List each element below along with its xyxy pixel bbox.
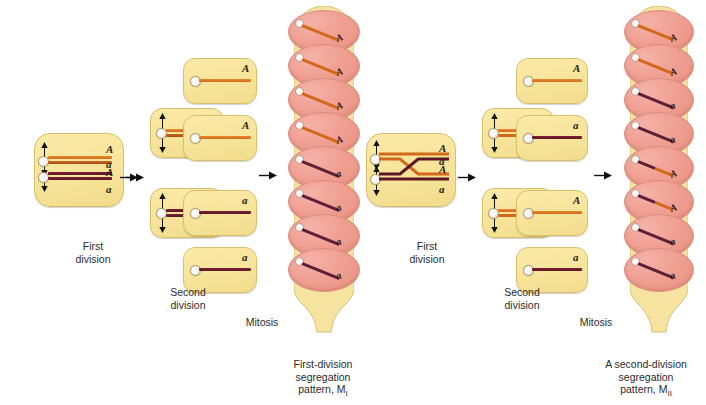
second-division-cell-2[interactable]: A [183, 115, 257, 161]
figure-canvas: AAaaAAaaAAaaAAAAaaaaFirstdivisionSecondd… [0, 0, 706, 405]
allele-label: a [573, 252, 579, 263]
caption-line: First [392, 240, 462, 253]
arrow-to-first-division-2 [458, 172, 476, 183]
allele-label: A [439, 143, 446, 154]
second-division-cell-3[interactable]: A [516, 190, 588, 236]
meiocyte-cell-crossover[interactable]: AAaa [366, 133, 456, 207]
second-division-cell-3[interactable]: a [183, 190, 257, 236]
allele-label: a [439, 156, 445, 167]
caption-line: division [482, 299, 562, 312]
chromatid-A-1 [48, 156, 112, 159]
chromatid [532, 268, 582, 271]
chromatid [532, 211, 582, 214]
arrow-first-division [120, 172, 138, 183]
caption-MII: A second-divisionsegregationpattern, MII [586, 358, 706, 401]
allele-label: a [439, 184, 445, 195]
caption-MI: First-divisionsegregationpattern, MI [268, 358, 378, 401]
chromatid [532, 79, 582, 82]
caption-line: Second [482, 286, 562, 299]
allele-label: a [106, 184, 112, 195]
chromatid [199, 268, 251, 271]
allele-label: A [106, 144, 113, 155]
label-mitosis-2: Mitosis [566, 316, 626, 329]
label-mitosis: Mitosis [232, 316, 292, 329]
chromatid-A-2 [48, 161, 112, 164]
chromatid-a-2 [48, 177, 112, 180]
second-division-cell-1[interactable]: A [516, 58, 588, 104]
allele-label: A [242, 63, 249, 74]
second-division-cell-1[interactable]: A [183, 58, 257, 104]
allele-label: A [573, 63, 580, 74]
caption-line: Mitosis [566, 316, 626, 329]
meiocyte-cell[interactable]: AAaa [34, 133, 124, 207]
chromatid [199, 79, 251, 82]
caption-subscript: II [667, 389, 671, 398]
caption-line: division [148, 299, 228, 312]
caption-line: A second-division [586, 358, 706, 371]
caption-line: First-division [268, 358, 378, 371]
caption-line: Second [148, 286, 228, 299]
allele-label: a [573, 120, 579, 131]
caption-line: pattern, MII [586, 383, 706, 401]
chromatid-a-1 [48, 172, 112, 175]
caption-line: division [392, 253, 462, 266]
caption-line: Mitosis [232, 316, 292, 329]
chromatid [199, 136, 251, 139]
caption-line: pattern, MI [268, 383, 378, 401]
ascospore[interactable]: a [624, 248, 692, 290]
ascus-MII[interactable]: AAaaAAaa [630, 6, 688, 336]
allele-label: a [242, 252, 248, 263]
allele-label: a [106, 159, 112, 170]
label-second-division-2: Seconddivision [482, 286, 562, 311]
ascus-MI[interactable]: AAAAaaaa [294, 6, 354, 336]
caption-line: division [58, 253, 128, 266]
caption-line: segregation [268, 371, 378, 384]
arrow-to-mitosis-2 [594, 170, 612, 181]
ascospore[interactable]: a [288, 248, 358, 290]
label-second-division: Seconddivision [148, 286, 228, 311]
chromatid [199, 211, 251, 214]
caption-subscript: I [346, 389, 348, 398]
label-first-division-2: Firstdivision [392, 240, 462, 265]
allele-label: a [242, 195, 248, 206]
second-division-cell-2[interactable]: a [516, 115, 588, 161]
arrow-to-mitosis [259, 170, 277, 181]
label-first-division: Firstdivision [58, 240, 128, 265]
allele-label: A [573, 195, 580, 206]
caption-line: segregation [586, 371, 706, 384]
allele-label: A [242, 120, 249, 131]
chromatid [532, 136, 582, 139]
caption-line: First [58, 240, 128, 253]
